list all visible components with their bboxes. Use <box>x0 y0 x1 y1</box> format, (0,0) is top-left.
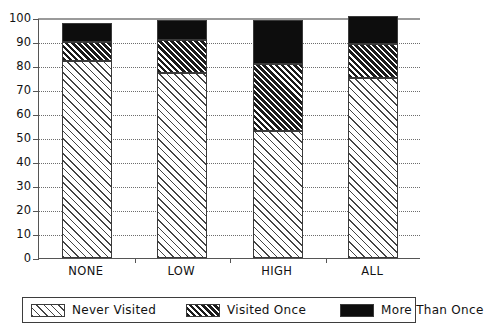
x-axis-tick-mark <box>230 258 231 263</box>
bar-segment-more-than-once <box>157 20 207 39</box>
y-axis-tick-label: 80 <box>16 61 31 73</box>
x-axis-label-high: HIGH <box>261 264 292 278</box>
chart-legend: Never Visited Visited Once More Than Onc… <box>22 297 416 323</box>
bar-segment-more-than-once <box>348 16 398 45</box>
y-axis-tick-mark <box>33 115 39 116</box>
y-axis-tick-label: 30 <box>16 181 31 193</box>
bar-stack-all <box>348 18 398 258</box>
bar-segment-never-visited <box>253 131 303 258</box>
y-axis-tick-label: 20 <box>16 205 31 217</box>
y-axis-tick-label: 40 <box>16 157 31 169</box>
y-axis-tick-mark <box>33 43 39 44</box>
bar-segment-more-than-once <box>62 23 112 42</box>
bar-stack-low <box>157 18 207 258</box>
bar-segment-never-visited <box>348 78 398 258</box>
y-axis-tick-mark <box>33 259 39 260</box>
x-axis-label-low: LOW <box>167 264 195 278</box>
x-axis-label-none: NONE <box>68 264 103 278</box>
y-axis-tick-label: 60 <box>16 109 31 121</box>
legend-entry-never-visited: Never Visited <box>31 298 156 322</box>
bar-segment-visited-once <box>62 42 112 61</box>
y-axis-tick-label: 10 <box>16 229 31 241</box>
x-axis-label-all: ALL <box>361 264 383 278</box>
bar-stack-none <box>62 18 112 258</box>
legend-label-visited-once: Visited Once <box>227 303 306 317</box>
y-axis-tick-mark <box>33 91 39 92</box>
legend-entry-more-than-once: More Than Once <box>340 298 484 322</box>
legend-label-more-than-once: More Than Once <box>381 303 484 317</box>
y-axis-tick-mark <box>33 139 39 140</box>
y-axis-tick-mark <box>33 19 39 20</box>
y-axis-tick-label: 70 <box>16 85 31 97</box>
y-axis-tick-mark <box>33 187 39 188</box>
bar-segment-more-than-once <box>253 20 303 63</box>
y-axis-tick-label: 50 <box>16 133 31 145</box>
y-axis-tick-mark <box>33 211 39 212</box>
bar-segment-never-visited <box>62 61 112 258</box>
y-axis-tick-mark <box>33 163 39 164</box>
bar-segment-visited-once <box>348 44 398 78</box>
y-axis-tick-label: 90 <box>16 37 31 49</box>
x-axis-tick-mark <box>135 258 136 263</box>
y-axis-tick-mark <box>33 67 39 68</box>
bar-segment-visited-once <box>253 64 303 131</box>
legend-swatch-visited-once-icon <box>186 304 220 317</box>
x-axis-tick-mark <box>326 258 327 263</box>
legend-swatch-more-than-once-icon <box>340 304 374 317</box>
plot-area: 0102030405060708090100 <box>38 19 420 259</box>
legend-swatch-never-visited-icon <box>31 304 65 317</box>
y-axis-tick-mark <box>33 235 39 236</box>
legend-label-never-visited: Never Visited <box>72 303 156 317</box>
bar-segment-never-visited <box>157 73 207 258</box>
y-axis-tick-label: 100 <box>9 13 31 25</box>
y-axis-tick-label: 0 <box>24 253 31 265</box>
bar-segment-visited-once <box>157 40 207 74</box>
legend-entry-visited-once: Visited Once <box>186 298 306 322</box>
bar-stack-high <box>253 18 303 258</box>
